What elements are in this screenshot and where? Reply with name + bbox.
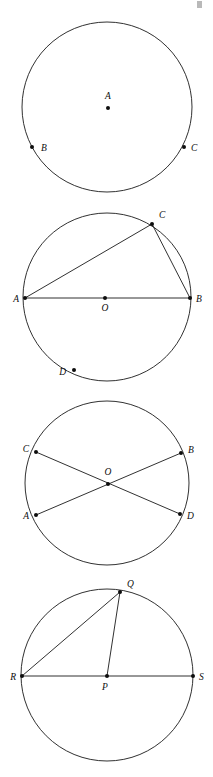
point-label-a: A xyxy=(22,511,29,521)
chord-AC xyxy=(25,224,152,298)
point-label-c: C xyxy=(191,143,198,153)
circle-with-diameter-rs-and-radius-pq: RSQP xyxy=(9,579,204,761)
point-dot-a xyxy=(23,296,27,300)
circle-with-two-intersecting-diameters: CBADO xyxy=(22,401,194,565)
point-dot-b xyxy=(179,451,183,455)
point-dot-d xyxy=(72,368,76,372)
point-dot-r xyxy=(20,674,24,678)
point-dot-c xyxy=(150,222,154,226)
point-dot-o xyxy=(106,482,110,486)
point-label-b: B xyxy=(188,445,194,455)
point-label-a: A xyxy=(12,294,19,304)
point-dot-c xyxy=(182,145,186,149)
point-dot-c xyxy=(34,450,38,454)
circle-with-center-and-two-points: ABC xyxy=(22,22,198,192)
point-label-o: O xyxy=(102,303,109,313)
point-dot-p xyxy=(105,674,109,678)
point-label-p: P xyxy=(101,682,108,692)
figures-layer: ABCABCODCBADORSQP xyxy=(9,22,204,761)
point-dot-a xyxy=(34,513,38,517)
point-dot-b xyxy=(30,145,34,149)
circle-with-diameter-ab-inscribed-angle-c: ABCOD xyxy=(12,210,202,381)
point-label-r: R xyxy=(9,672,16,682)
point-label-b: B xyxy=(41,143,47,153)
point-dot-b xyxy=(188,296,192,300)
geometry-figures-canvas: ABCABCODCBADORSQP xyxy=(0,0,213,777)
radius-PQ xyxy=(107,592,120,676)
point-dot-o xyxy=(103,296,107,300)
top-right-scan-artifact xyxy=(197,1,202,8)
point-label-c: C xyxy=(23,444,30,454)
artifacts-layer xyxy=(197,1,202,8)
point-dot-s xyxy=(191,674,195,678)
point-dot-d xyxy=(178,512,182,516)
point-dot-q xyxy=(118,590,122,594)
circle-outline xyxy=(23,213,191,381)
point-label-q: Q xyxy=(127,579,134,589)
point-label-a: A xyxy=(104,91,111,101)
point-label-s: S xyxy=(199,672,204,682)
point-label-d: D xyxy=(186,511,194,521)
point-dot-a xyxy=(106,106,110,110)
point-label-c: C xyxy=(159,210,166,220)
point-label-b: B xyxy=(196,294,202,304)
point-label-o: O xyxy=(105,467,112,477)
chord-RQ xyxy=(22,592,120,676)
point-label-d: D xyxy=(58,367,66,377)
chord-CB xyxy=(152,224,190,298)
figures-root: ABCABCODCBADORSQP xyxy=(0,0,213,777)
